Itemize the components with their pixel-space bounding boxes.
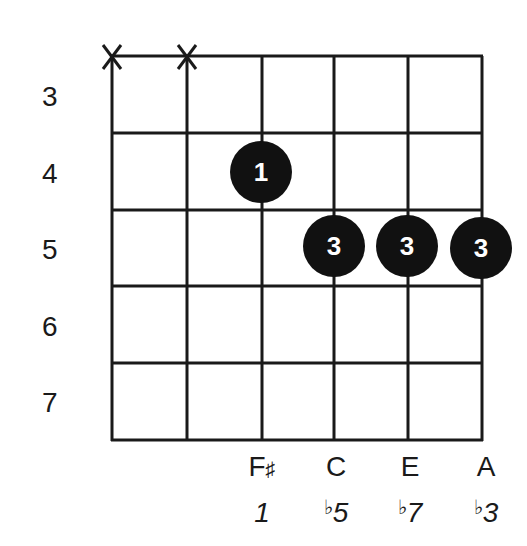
svg-text:3: 3 bbox=[474, 233, 488, 263]
fret-numbers: 3 4 5 6 7 bbox=[42, 81, 58, 418]
interval-label: ♭5 bbox=[324, 496, 349, 528]
interval-label: ♭3 bbox=[474, 496, 499, 528]
chord-diagram: 3 4 5 6 7 1 3 3 3 F♯ C E A 1 ♭5 ♭7 ♭3 bbox=[0, 0, 527, 546]
fret-number: 7 bbox=[42, 387, 58, 418]
interval-label: 1 bbox=[254, 497, 270, 528]
note-name: F♯ bbox=[248, 451, 275, 482]
fret-number: 5 bbox=[42, 234, 58, 265]
note-name: E bbox=[401, 451, 420, 482]
note-names: F♯ C E A bbox=[248, 451, 495, 482]
finger-dot: 3 bbox=[376, 215, 438, 277]
svg-text:3: 3 bbox=[400, 231, 414, 261]
svg-text:1: 1 bbox=[254, 157, 268, 187]
svg-text:3: 3 bbox=[327, 231, 341, 261]
finger-dot: 3 bbox=[450, 217, 512, 279]
finger-dot: 3 bbox=[303, 215, 365, 277]
finger-dot: 1 bbox=[230, 141, 292, 203]
interval-label: ♭7 bbox=[398, 496, 424, 528]
fret-number: 4 bbox=[42, 158, 58, 189]
fret-number: 6 bbox=[42, 311, 58, 342]
intervals: 1 ♭5 ♭7 ♭3 bbox=[254, 496, 499, 528]
fret-number: 3 bbox=[42, 81, 58, 112]
note-name: C bbox=[326, 451, 346, 482]
note-name: A bbox=[477, 451, 496, 482]
